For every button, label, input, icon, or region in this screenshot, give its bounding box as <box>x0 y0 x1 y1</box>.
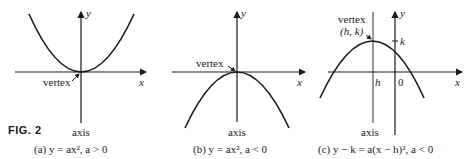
y-axis-label-b: y <box>241 7 246 19</box>
vertex-label-b: vertex <box>196 57 223 69</box>
vertex-label-a: vertex <box>43 76 70 88</box>
h-tick-label: h <box>375 76 381 88</box>
axis-label-b: axis <box>228 126 246 138</box>
vertex-coords-label-c: (h, k) <box>340 25 363 37</box>
y-axis-label-a: y <box>86 7 91 19</box>
vertex-pointer-b <box>228 66 235 71</box>
vertex-pointer-a <box>72 74 79 81</box>
zero-tick-label: 0 <box>398 76 404 88</box>
y-axis-label-c: y <box>400 7 405 19</box>
vertex-pointer-c <box>366 35 371 39</box>
axis-label-c: axis <box>361 126 379 138</box>
caption-b: (b) y = ax², a < 0 <box>193 143 267 155</box>
x-axis-label-c: x <box>455 76 460 88</box>
x-axis-label-b: x <box>297 76 302 88</box>
panel-b <box>172 12 305 128</box>
caption-a: (a) y = ax², a > 0 <box>34 143 107 155</box>
axis-label-a: axis <box>72 126 90 138</box>
parabola-c <box>320 41 424 98</box>
x-axis-label-a: x <box>139 76 144 88</box>
figure-label: FIG. 2 <box>8 124 42 136</box>
vertex-label-c: vertex <box>338 13 365 25</box>
k-tick-label: k <box>400 35 405 47</box>
panel-a <box>15 12 146 123</box>
caption-c: (c) y − k = a(x − h)², a < 0 <box>318 143 433 155</box>
